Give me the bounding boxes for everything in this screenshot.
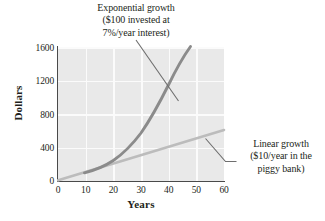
annotation-exponential-line-3: 7%/year interest) (62, 27, 210, 39)
annotation-exponential-line-2: ($100 invested at (62, 14, 210, 26)
annotation-linear-line-2: ($10/year in the (238, 150, 324, 162)
annotation-exponential-growth: Exponential growth ($100 invested at 7%/… (62, 2, 210, 39)
exponential-growth-curve (85, 47, 191, 173)
annotation-linear-growth: Linear growth ($10/year in the piggy ban… (238, 138, 324, 175)
annotation-exponential-line-1: Exponential growth (62, 2, 210, 14)
growth-comparison-chart: 1600 1200 800 400 0 0 10 20 30 40 50 60 … (0, 0, 325, 221)
exponential-leader-line (136, 40, 179, 101)
annotation-linear-line-1: Linear growth (238, 138, 324, 150)
linear-leader-line (206, 139, 237, 162)
annotation-linear-line-3: piggy bank) (238, 163, 324, 175)
